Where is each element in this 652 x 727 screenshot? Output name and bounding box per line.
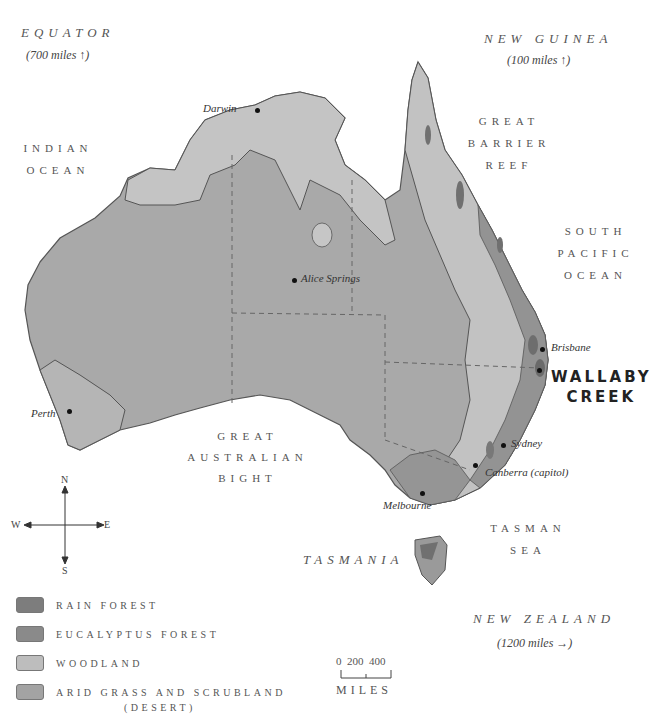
woodland-patch [312, 223, 332, 247]
legend-label: ARID GRASS AND SCRUBLAND [56, 687, 286, 698]
scale-tick-200: 200 [347, 655, 364, 667]
rainforest-patch [425, 125, 431, 145]
pacific-line1: SOUTH [553, 220, 638, 242]
rainforest-patch [456, 181, 464, 209]
great-barrier-reef-label: GREAT BARRIER REEF [464, 110, 554, 176]
wallaby-creek-line2: CREEK [551, 387, 652, 407]
compass-south: S [62, 565, 68, 576]
city-marker-perth [67, 409, 72, 414]
scale-bar [341, 670, 391, 678]
new-guinea-label: NEW GUINEA [484, 31, 612, 47]
city-label-sydney: Sydney [511, 437, 542, 449]
great-australian-bight-label: GREAT AUSTRALIAN BIGHT [180, 426, 315, 489]
legend-item-woodland: WOODLAND [16, 655, 143, 671]
equator-distance: (700 miles ↑) [26, 48, 89, 63]
city-marker-melbourne [420, 491, 425, 496]
city-label-melbourne: Melbourne [383, 499, 431, 511]
city-marker-alice-springs [292, 278, 297, 283]
scale-tick-400: 400 [369, 655, 386, 667]
tasman-line1: TASMAN [488, 517, 568, 539]
city-label-darwin: Darwin [203, 102, 237, 114]
bight-line3: BIGHT [180, 468, 315, 489]
scale-ticks: 0 200 400 [336, 655, 386, 667]
legend-sublabel-desert: (DESERT) [124, 702, 196, 713]
wallaby-creek-line1: WALLABY [551, 367, 652, 387]
city-label-perth: Perth [31, 407, 55, 419]
city-marker-wallaby-creek [537, 368, 542, 373]
city-marker-canberra [473, 463, 478, 468]
compass-west: W [11, 519, 20, 530]
south-pacific-ocean-label: SOUTH PACIFIC OCEAN [553, 220, 638, 286]
tasman-line2: SEA [488, 539, 568, 561]
tasmania-label: TASMANIA [303, 552, 403, 568]
compass-rose [24, 486, 104, 564]
indian-ocean-line2: OCEAN [18, 159, 98, 181]
city-marker-brisbane [540, 347, 545, 352]
rainforest-patch [497, 237, 503, 253]
city-label-canberra: Canberra (capitol) [485, 466, 568, 478]
pacific-line3: OCEAN [553, 264, 638, 286]
legend-label: EUCALYPTUS FOREST [56, 629, 219, 640]
compass-north: N [61, 474, 68, 485]
bight-line1: GREAT [180, 426, 315, 447]
pacific-line2: PACIFIC [553, 242, 638, 264]
rainforest-patch [528, 335, 538, 355]
scale-unit: MILES [336, 683, 392, 698]
rainforest-patch [486, 441, 494, 459]
wallaby-creek-label: WALLABY CREEK [551, 367, 652, 407]
city-marker-darwin [255, 108, 260, 113]
indian-ocean-label: INDIAN OCEAN [18, 137, 98, 181]
legend-item-eucalyptus-forest: EUCALYPTUS FOREST [16, 626, 219, 642]
eucalyptus-forest-swatch [16, 626, 44, 642]
rain-forest-swatch [16, 597, 44, 613]
legend-item-arid-grass: ARID GRASS AND SCRUBLAND [16, 684, 286, 700]
equator-label: EQUATOR [21, 25, 115, 41]
legend-item-rain-forest: RAIN FOREST [16, 597, 159, 613]
legend-label: RAIN FOREST [56, 600, 159, 611]
new-zealand-label: NEW ZEALAND [473, 611, 615, 627]
city-label-brisbane: Brisbane [551, 341, 591, 353]
new-zealand-distance: (1200 miles →) [497, 636, 572, 651]
legend-label: WOODLAND [56, 658, 143, 669]
tasman-sea-label: TASMAN SEA [488, 517, 568, 561]
city-label-alice-springs: Alice Springs [301, 272, 360, 284]
arid-grass-swatch [16, 684, 44, 700]
reef-line1: GREAT [464, 110, 554, 132]
reef-line3: REEF [464, 154, 554, 176]
bight-line2: AUSTRALIAN [180, 447, 315, 468]
compass-east: E [104, 519, 110, 530]
reef-line2: BARRIER [464, 132, 554, 154]
city-marker-sydney [501, 443, 506, 448]
scale-tick-0: 0 [336, 655, 342, 667]
indian-ocean-line1: INDIAN [18, 137, 98, 159]
new-guinea-distance: (100 miles ↑) [507, 53, 570, 68]
woodland-swatch [16, 655, 44, 671]
